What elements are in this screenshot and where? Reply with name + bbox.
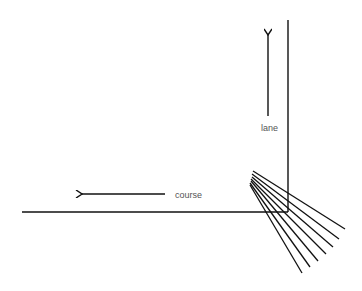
fan-lines — [250, 171, 345, 273]
diagram-svg: lane course — [0, 0, 362, 291]
fan-line — [251, 181, 318, 261]
lane-course-diagram: lane course — [0, 0, 362, 291]
lane-label: lane — [261, 123, 278, 133]
fan-line — [252, 174, 339, 239]
course-label: course — [175, 190, 202, 200]
